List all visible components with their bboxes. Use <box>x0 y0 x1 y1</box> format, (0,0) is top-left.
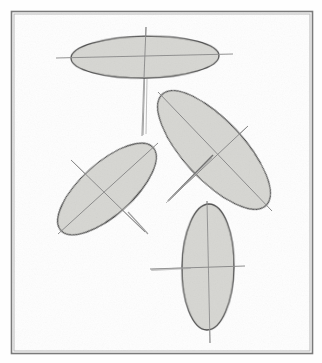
ellipse-figure <box>0 0 322 363</box>
paper-grain-overlay <box>12 12 310 351</box>
figure-canvas <box>0 0 322 363</box>
